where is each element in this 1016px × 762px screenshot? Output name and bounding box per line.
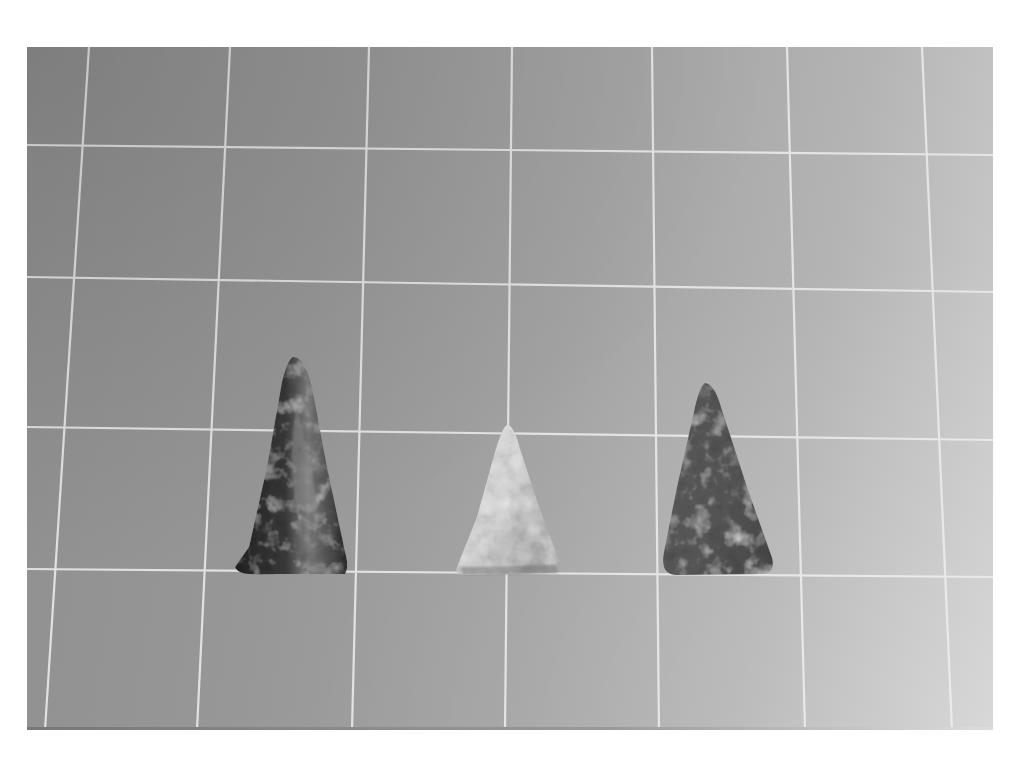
- photo-bottom-edge: [27, 727, 993, 730]
- arrowhead-photograph: [27, 47, 993, 730]
- photo-canvas: [27, 47, 993, 730]
